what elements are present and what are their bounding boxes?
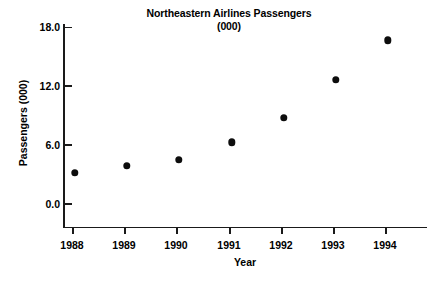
data-point-1988 (71, 169, 78, 176)
data-point-1992 (280, 114, 287, 121)
x-axis-tick-label-1992: 1992 (254, 239, 308, 251)
chart-title: Northeastern Airlines Passengers (64, 7, 394, 20)
x-axis-tick-1989 (124, 227, 126, 234)
y-axis-tick-12 (65, 85, 72, 87)
x-axis-title: Year (63, 256, 427, 268)
x-axis-tick-label-1990: 1990 (149, 239, 203, 251)
data-point-1991 (228, 138, 235, 145)
y-axis-tick-0 (65, 203, 72, 205)
y-axis-title: Passengers (000) (17, 58, 29, 188)
chart-subtitle: (000) (64, 20, 394, 33)
data-point-1990 (175, 156, 182, 163)
chart-title-block: Northeastern Airlines Passengers (000) (64, 7, 394, 33)
y-axis-tick-label-18: 18.0 (16, 21, 60, 33)
x-axis-tick-1991 (229, 227, 231, 234)
data-point-1989 (123, 162, 130, 169)
x-axis-line (63, 227, 427, 229)
y-axis-tick-label-0: 0.0 (16, 198, 60, 210)
data-point-1993 (332, 76, 339, 83)
y-axis-tick-6 (65, 144, 72, 146)
x-axis-tick-label-1994: 1994 (358, 239, 412, 251)
x-axis-tick-1993 (333, 227, 335, 234)
x-axis-tick-label-1989: 1989 (97, 239, 151, 251)
x-axis-tick-1992 (281, 227, 283, 234)
x-axis-tick-1994 (385, 227, 387, 234)
x-axis-tick-1990 (176, 227, 178, 234)
x-axis-tick-1988 (72, 227, 74, 234)
y-axis-tick-18 (65, 27, 72, 29)
chart-figure: Northeastern Airlines Passengers (000) 1… (0, 0, 434, 284)
x-axis-tick-label-1993: 1993 (306, 239, 360, 251)
x-axis-tick-label-1988: 1988 (45, 239, 99, 251)
y-axis-line (63, 24, 65, 228)
x-axis-tick-label-1991: 1991 (202, 239, 256, 251)
data-point-1994 (384, 37, 391, 44)
